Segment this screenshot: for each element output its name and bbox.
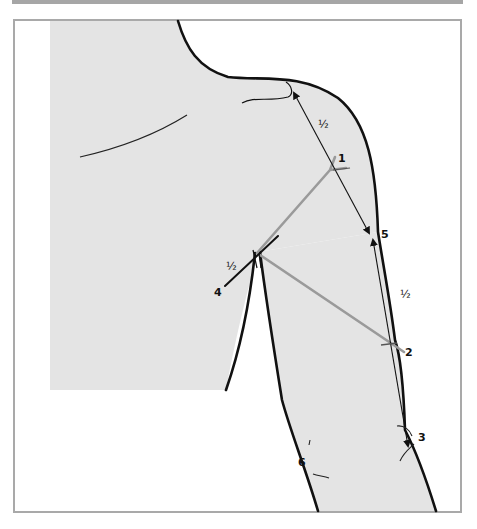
point-label-6: 6: [298, 456, 306, 469]
left-margin: [15, 21, 50, 511]
fraction-label-upper-arm: ½: [400, 288, 411, 301]
point-label-2: 2: [405, 346, 413, 359]
fraction-label-armpit: ½: [226, 260, 237, 273]
point-label-4: 4: [214, 286, 222, 299]
point-label-3: 3: [418, 431, 426, 444]
sleeve-fill: [258, 232, 436, 511]
point-label-5: 5: [381, 228, 389, 241]
point-label-1: 1: [338, 152, 346, 165]
fraction-label-shoulder: ½: [318, 118, 329, 131]
sleeve-drafting-diagram: 1 2 3 4 5 6 ½ ½ ½: [0, 0, 477, 529]
